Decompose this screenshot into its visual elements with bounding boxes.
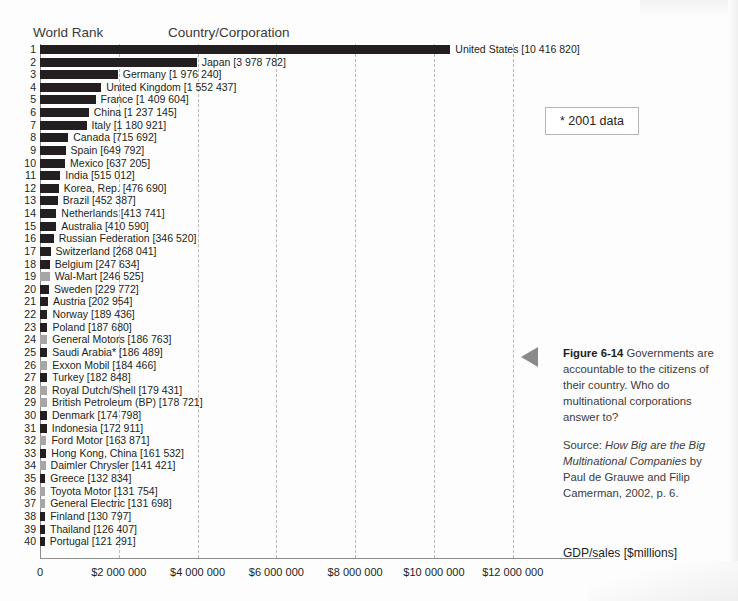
bar-country	[40, 297, 48, 306]
row-rank: 5	[30, 93, 36, 105]
row-rank: 15	[24, 220, 36, 232]
row-label: Russian Federation [346 520]	[59, 232, 197, 244]
footnote-box: * 2001 data	[545, 107, 639, 135]
bar-corporation	[40, 272, 50, 281]
bar-corporation	[40, 436, 46, 445]
bar-country	[40, 323, 47, 332]
caption-source: Source: How Big are the Big Multinationa…	[563, 437, 718, 501]
row-rank: 38	[24, 510, 36, 522]
row-label: Finland [130 797]	[50, 510, 131, 522]
row-label: Spain [649 792]	[71, 144, 145, 156]
bar-country	[40, 121, 87, 130]
page-edge-top	[640, 0, 738, 16]
row-rank: 4	[30, 81, 36, 93]
row-label: Portugal [121 291]	[50, 535, 136, 547]
row-rank: 20	[24, 283, 36, 295]
row-rank: 9	[30, 144, 36, 156]
row-label: United Kingdom [1 552 437]	[106, 81, 236, 93]
row-rank: 29	[24, 396, 36, 408]
row-rank: 1	[30, 43, 36, 55]
row-label: Exxon Mobil [184 466]	[52, 359, 156, 371]
row-rank: 11	[25, 169, 36, 181]
x-axis-title: GDP/sales [$millions]	[563, 546, 677, 560]
column-header-country-corporation: Country/Corporation	[168, 25, 290, 40]
row-label: United States [10 416 820]	[455, 43, 579, 55]
row-rank: 30	[24, 409, 36, 421]
row-label: Korea, Rep. [476 690]	[64, 182, 167, 194]
bar-country	[40, 285, 49, 294]
row-rank: 36	[24, 485, 36, 497]
bar-country	[40, 449, 46, 458]
row-label: Sweden [229 772]	[54, 283, 139, 295]
row-label: Germany [1 976 240]	[123, 68, 222, 80]
row-rank: 27	[24, 371, 36, 383]
bar-country	[40, 108, 89, 117]
row-rank: 6	[30, 106, 36, 118]
row-rank: 31	[24, 422, 36, 434]
row-label: India [515 012]	[65, 169, 134, 181]
bar-chart-plot-area: 1United States [10 416 820]2Japan [3 978…	[40, 44, 560, 558]
bar-corporation	[40, 487, 45, 496]
bar-country	[40, 70, 118, 79]
row-label: Australia [410 590]	[61, 220, 149, 232]
row-label: Canada [715 692]	[73, 131, 157, 143]
row-rank: 10	[24, 157, 36, 169]
bar-country	[40, 310, 47, 319]
bar-corporation	[40, 499, 45, 508]
figure-page: World Rank Country/Corporation 1United S…	[0, 0, 738, 601]
row-rank: 34	[24, 459, 36, 471]
bar-country	[40, 159, 65, 168]
row-label: Brazil [452 387]	[63, 194, 136, 206]
row-label: Indonesia [172 911]	[52, 422, 143, 434]
bar-corporation	[40, 335, 47, 344]
x-tick-label: $6 000 000	[249, 566, 304, 578]
bar-corporation	[40, 386, 47, 395]
row-rank: 40	[24, 535, 36, 547]
row-label: Poland [187 680]	[52, 321, 131, 333]
row-label: Japan [3 978 782]	[202, 56, 286, 68]
row-label: Thailand [126 407]	[50, 523, 137, 535]
row-rank: 24	[24, 333, 36, 345]
row-label: Netherlands [413 741]	[61, 207, 164, 219]
row-rank: 3	[30, 68, 36, 80]
row-rank: 19	[24, 270, 36, 282]
row-rank: 23	[24, 321, 36, 333]
row-label: Austria [202 954]	[53, 295, 132, 307]
bar-country	[40, 525, 45, 534]
row-label: Ford Motor [163 871]	[51, 434, 149, 446]
page-edge-right	[728, 0, 738, 601]
bar-country	[40, 222, 56, 231]
bar-country	[40, 146, 66, 155]
row-label: Saudi Arabia* [186 489]	[52, 346, 162, 358]
bar-corporation	[40, 398, 47, 407]
figure-number: Figure 6-14	[563, 347, 623, 359]
figure-caption: Figure 6-14 Governments are accountable …	[563, 345, 718, 501]
bar-country	[40, 83, 101, 92]
row-rank: 32	[24, 434, 36, 446]
row-label: Mexico [637 205]	[70, 157, 150, 169]
bar-country	[40, 196, 58, 205]
bar-country	[40, 411, 47, 420]
bar-country	[40, 424, 47, 433]
chart-row: 40Portugal [121 291]	[40, 536, 560, 549]
x-tick-label: $10 000 000	[403, 566, 464, 578]
chart-row: 1United States [10 416 820]	[40, 44, 560, 57]
row-label: Wal-Mart [246 525]	[55, 270, 144, 282]
row-rank: 13	[24, 194, 36, 206]
bar-country	[40, 512, 45, 521]
row-label: Hong Kong, China [161 532]	[51, 447, 184, 459]
row-rank: 22	[24, 308, 36, 320]
row-rank: 12	[24, 182, 36, 194]
row-rank: 37	[24, 497, 36, 509]
row-label: General Motors [186 763]	[52, 333, 171, 345]
x-tick-label: $8 000 000	[328, 566, 383, 578]
row-label: British Petroleum (BP) [178 721]	[52, 396, 203, 408]
bar-country	[40, 133, 68, 142]
bar-country	[40, 95, 96, 104]
bar-country	[40, 260, 50, 269]
row-rank: 21	[24, 295, 36, 307]
page-edge-bottom	[588, 561, 738, 601]
bar-country	[40, 184, 59, 193]
bar-country	[40, 45, 450, 54]
bar-country	[40, 348, 47, 357]
